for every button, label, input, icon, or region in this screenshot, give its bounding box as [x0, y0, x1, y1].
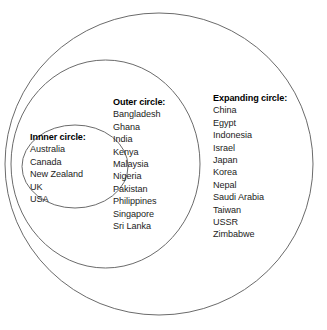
outer-circle-country: Ghana — [113, 121, 165, 133]
outer-circle-country: Malaysia — [113, 158, 165, 170]
three-circles-diagram: Innner circle: Australia Canada New Zeal… — [0, 0, 327, 330]
expanding-circle-country: USSR — [213, 216, 287, 228]
expanding-circle-country: Korea — [213, 166, 287, 178]
inner-circle-country: UK — [30, 181, 86, 193]
outer-circle-country: Bangladesh — [113, 108, 165, 120]
expanding-circle-country: Japan — [213, 154, 287, 166]
expanding-circle-country: Nepal — [213, 179, 287, 191]
expanding-circle-country: China — [213, 104, 287, 116]
outer-circle-label-block: Outer circle: Bangladesh Ghana India Ken… — [113, 96, 165, 232]
inner-circle-heading: Innner circle: — [30, 131, 86, 143]
outer-circle-heading: Outer circle: — [113, 96, 165, 108]
expanding-circle-heading: Expanding circle: — [213, 92, 287, 104]
outer-circle-country: Sri Lanka — [113, 220, 165, 232]
outer-circle-country: Singapore — [113, 208, 165, 220]
inner-circle-country: USA — [30, 193, 86, 205]
expanding-circle-label-block: Expanding circle: China Egypt Indonesia … — [213, 92, 287, 241]
inner-circle-country: Australia — [30, 143, 86, 155]
expanding-circle-country: Zimbabwe — [213, 228, 287, 240]
outer-circle-country: Nigeria — [113, 170, 165, 182]
expanding-circle-country: Egypt — [213, 117, 287, 129]
inner-circle-country: New Zealand — [30, 168, 86, 180]
outer-circle-country: Philippines — [113, 195, 165, 207]
expanding-circle-country: Indonesia — [213, 129, 287, 141]
inner-circle-label-block: Innner circle: Australia Canada New Zeal… — [30, 131, 86, 205]
outer-circle-country: Pakistan — [113, 183, 165, 195]
expanding-circle-country: Taiwan — [213, 204, 287, 216]
outer-circle-country: Kenya — [113, 146, 165, 158]
inner-circle-country: Canada — [30, 156, 86, 168]
expanding-circle-country: Israel — [213, 142, 287, 154]
outer-circle-country: India — [113, 133, 165, 145]
expanding-circle-country: Saudi Arabia — [213, 191, 287, 203]
